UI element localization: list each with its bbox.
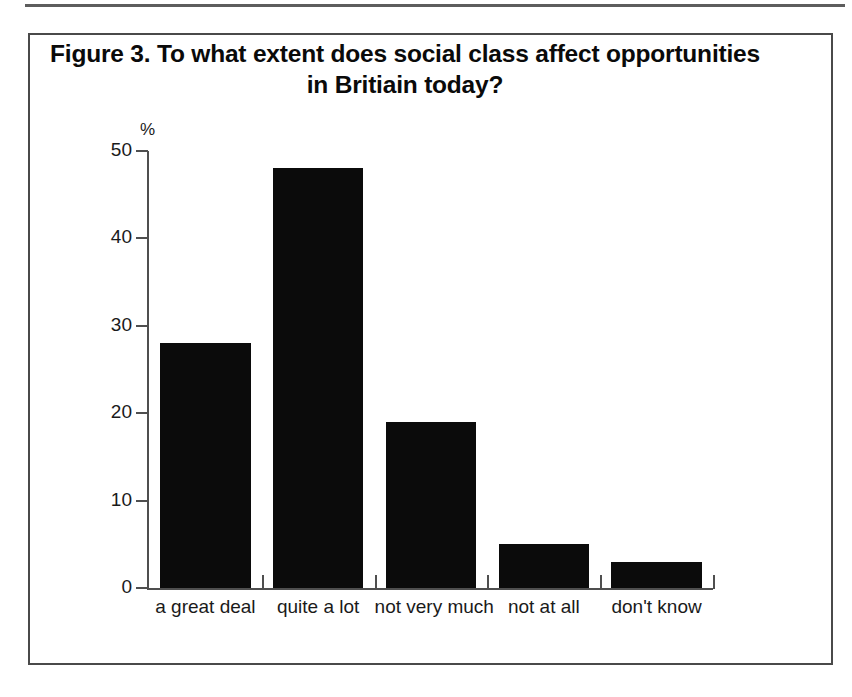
bar-quite-a-lot bbox=[273, 168, 363, 588]
x-tick-1 bbox=[262, 575, 264, 589]
y-axis-unit-label: % bbox=[140, 120, 155, 140]
x-label-don-t-know: don't know bbox=[600, 596, 713, 618]
x-tick-2 bbox=[375, 575, 377, 589]
x-label-a-great-deal: a great deal bbox=[149, 596, 262, 618]
x-tick-end bbox=[713, 575, 715, 589]
chart-plot-area: % 01020304050 a great dealquite a lotnot… bbox=[0, 0, 852, 697]
y-axis-line bbox=[147, 151, 149, 589]
y-tick-label-0: 0 bbox=[92, 576, 132, 598]
x-tick-4 bbox=[600, 575, 602, 589]
y-tick-label-50: 50 bbox=[92, 139, 132, 161]
x-tick-3 bbox=[487, 575, 489, 589]
y-tick-label-20: 20 bbox=[92, 401, 132, 423]
bar-not-very-much bbox=[386, 422, 476, 588]
x-label-not-at-all: not at all bbox=[487, 596, 600, 618]
x-label-not-very-much: not very much bbox=[375, 596, 488, 618]
x-label-quite-a-lot: quite a lot bbox=[262, 596, 375, 618]
y-tick-50 bbox=[136, 150, 148, 152]
y-tick-label-10: 10 bbox=[92, 489, 132, 511]
y-tick-20 bbox=[136, 412, 148, 414]
y-tick-40 bbox=[136, 237, 148, 239]
y-tick-30 bbox=[136, 325, 148, 327]
y-tick-label-40: 40 bbox=[92, 226, 132, 248]
y-tick-0 bbox=[136, 587, 148, 589]
bar-don-t-know bbox=[611, 562, 701, 588]
bar-a-great-deal bbox=[160, 343, 250, 588]
y-tick-label-30: 30 bbox=[92, 314, 132, 336]
x-axis-line bbox=[147, 588, 713, 590]
y-tick-10 bbox=[136, 500, 148, 502]
bar-not-at-all bbox=[499, 544, 589, 588]
